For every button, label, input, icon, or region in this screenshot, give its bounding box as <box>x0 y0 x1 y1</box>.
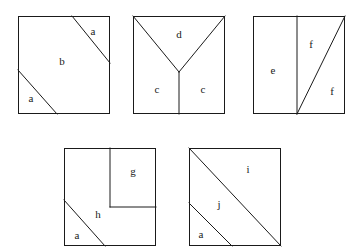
square-vertical-split-with-diagonal: eff <box>253 16 345 114</box>
label-h-region: h <box>95 208 101 220</box>
square-y-partition: dcc <box>133 16 225 114</box>
label-a-corner: a <box>199 228 204 240</box>
label-c-left: c <box>155 83 160 95</box>
label-e-left: e <box>271 64 276 76</box>
label-a-bottom: a <box>29 92 34 104</box>
square-parallel-diagonal-cuts: aba <box>18 16 110 114</box>
square-main-diagonal-with-parallel-cut: ija <box>189 148 281 246</box>
label-g-inset: g <box>130 165 136 177</box>
square-inset-square-and-corner-cut: gha <box>64 148 156 246</box>
label-j-middle: j <box>216 198 220 210</box>
label-b-middle: b <box>59 55 65 67</box>
label-f-lower: f <box>330 85 334 97</box>
label-a-top: a <box>91 25 96 37</box>
label-c-right: c <box>201 83 206 95</box>
figure-group: abadcceffghaija <box>18 16 345 246</box>
label-f-upper: f <box>309 38 313 50</box>
square-fill <box>253 16 345 114</box>
label-a-corner: a <box>75 229 80 241</box>
figure-sheet: abadcceffghaija <box>0 0 362 252</box>
label-d-top: d <box>176 28 182 40</box>
label-i-upper: i <box>246 163 249 175</box>
